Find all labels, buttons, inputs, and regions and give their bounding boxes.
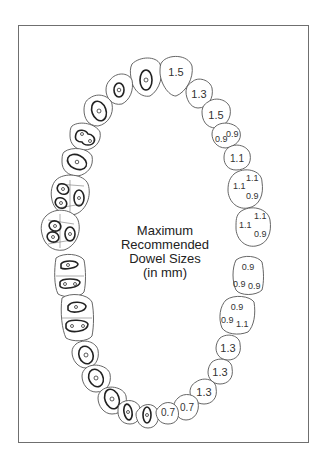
upper-left-second-premolar [62, 149, 92, 176]
dowel-size-label: 0.9 [221, 315, 234, 325]
lower-left-central-incisor [136, 405, 159, 428]
dowel-size-label: 0.9 [233, 279, 246, 289]
dowel-size-label: 0.9 [231, 302, 244, 312]
upper-left-central-incisor [130, 58, 161, 96]
upper-left-first-premolar [70, 123, 100, 150]
dowel-size-label: 1.3 [196, 386, 211, 398]
upper-left-second-molar [41, 210, 79, 250]
dowel-size-label: 0.9 [242, 262, 255, 272]
upper-right-second-premolar: 1.1 [224, 145, 250, 170]
upper-left-canine [84, 95, 112, 126]
dowel-size-label: 1.5 [168, 66, 183, 78]
lower-right-second-molar: 0.9 0.9 0.9 [233, 256, 264, 294]
diagram-title: Maximum Recommended Dowel Sizes (in mm) [100, 224, 230, 280]
dowel-size-label: 1.3 [220, 342, 235, 354]
dowel-size-label: 1.3 [191, 88, 206, 100]
dowel-size-label: 0.9 [248, 281, 261, 291]
lower-right-second-premolar: 1.3 [216, 335, 240, 360]
dowel-size-label: 1.3 [212, 366, 227, 378]
dowel-size-label: 0.7 [180, 402, 194, 413]
dowel-size-label: 0.7 [161, 407, 175, 418]
upper-right-first-molar: 1.1 1.1 0.9 [228, 170, 262, 208]
dowel-size-label: 1.5 [208, 109, 223, 121]
lower-left-first-molar [61, 295, 93, 341]
dowel-size-label: 1.1 [239, 220, 252, 230]
title-line: (in mm) [100, 266, 230, 280]
lower-right-central-incisor: 0.7 [156, 403, 179, 424]
lower-right-first-premolar: 1.3 [208, 359, 232, 384]
lower-right-first-molar: 0.9 0.9 1.1 [220, 296, 255, 334]
dowel-size-label: 0.9 [246, 191, 259, 201]
upper-right-first-premolar: 0.9 0.9 [212, 123, 240, 148]
dowel-size-label: 1.1 [233, 181, 246, 191]
title-line: Dowel Sizes [100, 252, 230, 266]
upper-left-first-molar [51, 175, 89, 215]
dowel-size-label: 1.1 [236, 319, 249, 329]
dowel-size-label: 1.1 [246, 173, 259, 183]
dowel-size-label: 0.9 [226, 129, 239, 139]
dowel-size-label: 1.1 [254, 211, 267, 221]
dowel-size-label: 0.9 [254, 229, 267, 239]
title-line: Recommended [100, 238, 230, 252]
lower-left-second-premolar [72, 341, 98, 368]
title-line: Maximum [100, 224, 230, 238]
lower-left-second-molar [55, 254, 86, 296]
upper-right-second-molar: 1.1 1.1 0.9 [236, 208, 270, 246]
dowel-size-label: 1.1 [230, 153, 244, 164]
